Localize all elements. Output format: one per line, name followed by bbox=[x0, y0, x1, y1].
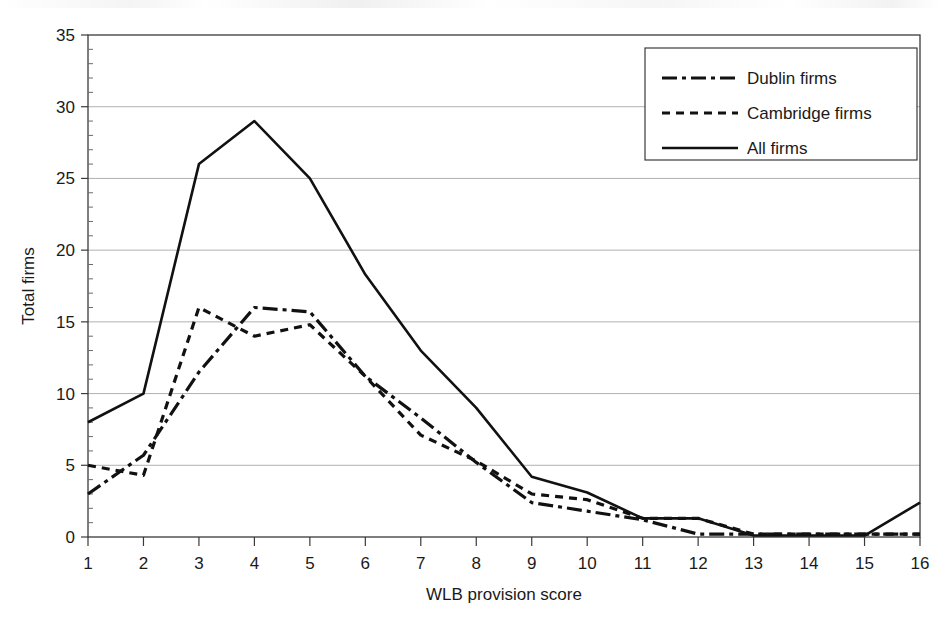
x-tick-label: 9 bbox=[527, 554, 536, 573]
x-tick-label: 1 bbox=[83, 554, 92, 573]
legend[interactable]: Dublin firmsCambridge firmsAll firms bbox=[645, 48, 917, 160]
y-tick-label: 5 bbox=[66, 456, 75, 475]
y-tick-label: 10 bbox=[56, 385, 75, 404]
x-tick-label: 15 bbox=[855, 554, 874, 573]
x-tick-label: 5 bbox=[305, 554, 314, 573]
legend-label-cambridge-firms: Cambridge firms bbox=[747, 104, 872, 123]
y-tick-label: 15 bbox=[56, 313, 75, 332]
x-tick-label: 7 bbox=[416, 554, 425, 573]
chart-svg: 05101520253035 12345678910111213141516 T… bbox=[0, 0, 939, 632]
y-tick-label: 0 bbox=[66, 528, 75, 547]
chart-figure: 05101520253035 12345678910111213141516 T… bbox=[0, 0, 939, 632]
x-axis-title: WLB provision score bbox=[426, 585, 582, 604]
x-tick-label: 3 bbox=[194, 554, 203, 573]
x-tick-label: 6 bbox=[361, 554, 370, 573]
legend-label-dublin-firms: Dublin firms bbox=[747, 69, 837, 88]
x-tick-label: 11 bbox=[634, 554, 652, 573]
x-tick-label: 13 bbox=[744, 554, 763, 573]
x-tick-label: 12 bbox=[689, 554, 708, 573]
y-axis-title: Total firms bbox=[19, 247, 38, 324]
x-tick-label: 14 bbox=[800, 554, 819, 573]
x-tick-label: 2 bbox=[139, 554, 148, 573]
y-tick-label: 35 bbox=[56, 26, 75, 45]
x-axis: 12345678910111213141516 bbox=[83, 537, 929, 573]
y-tick-label: 30 bbox=[56, 98, 75, 117]
y-tick-label: 25 bbox=[56, 169, 75, 188]
x-tick-label: 8 bbox=[472, 554, 481, 573]
x-tick-label: 4 bbox=[250, 554, 259, 573]
x-tick-label: 16 bbox=[911, 554, 930, 573]
y-tick-label: 20 bbox=[56, 241, 75, 260]
x-tick-label: 10 bbox=[578, 554, 597, 573]
legend-label-all-firms: All firms bbox=[747, 139, 807, 158]
